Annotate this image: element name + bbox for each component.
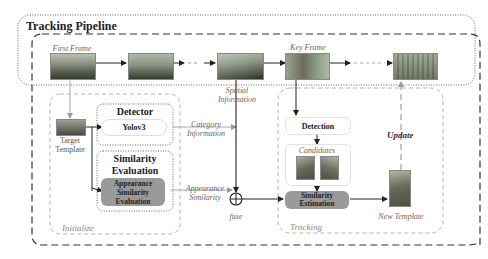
- first-frame-label: First Frame: [50, 44, 94, 53]
- detector-title: Detector: [97, 106, 173, 117]
- last-frame-image: [393, 53, 438, 80]
- category-information-label: Category Information: [180, 120, 232, 138]
- initialize-label: Initialize: [62, 224, 94, 233]
- yolov3-label: Yolov3: [122, 123, 145, 132]
- candidate-2-image: [320, 156, 339, 180]
- frame-2-image: [128, 53, 174, 80]
- appearance-similarity-connector-label: Appearance Similarity: [180, 184, 230, 202]
- spatial-information-label: Spatial Information: [212, 86, 262, 104]
- appearance-similarity-box: Appearance Similarity Evaluation: [101, 178, 165, 206]
- new-template-image: [389, 170, 411, 207]
- frame-3-image: [217, 53, 264, 80]
- tracking-label: Tracking: [290, 223, 322, 232]
- update-label: Update: [387, 130, 414, 140]
- similarity-evaluation-title: Similarity Evaluation: [100, 153, 170, 177]
- new-template-label: New Template: [373, 212, 429, 221]
- key-frame-label: Key Frame: [283, 43, 333, 52]
- detection-box: Detection: [285, 117, 351, 135]
- pipeline-title: Tracking Pipeline: [26, 19, 117, 34]
- similarity-estimation-label: Similarity Estimation: [289, 192, 345, 208]
- key-frame-image: [285, 53, 330, 80]
- first-frame-image: [50, 53, 96, 80]
- yolov3-box: Yolov3: [101, 119, 167, 136]
- fuse-label: fuse: [225, 212, 247, 221]
- similarity-estimation-box: Similarity Estimation: [285, 191, 349, 209]
- candidate-1-image: [296, 156, 315, 180]
- candidates-label: Candidates: [285, 146, 349, 155]
- target-template-image: [56, 119, 86, 136]
- appearance-similarity-label: Appearance Similarity Evaluation: [105, 179, 161, 206]
- detection-label: Detection: [302, 122, 334, 131]
- target-template-label: Target Template: [48, 136, 92, 154]
